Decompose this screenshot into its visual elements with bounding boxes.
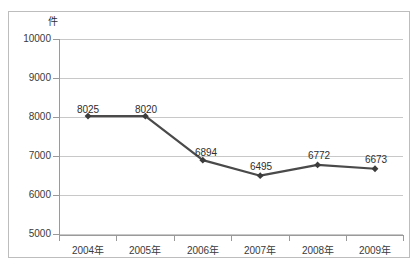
data-series	[9, 12, 411, 259]
point-label-2007: 6495	[233, 162, 289, 172]
point-label-2008: 6772	[291, 151, 347, 161]
data-point-2007年	[257, 172, 264, 179]
chart-frame: 件 10000 9000 8000 7000 6000 5000 2004年 2…	[8, 11, 410, 258]
data-point-2008年	[314, 161, 321, 168]
point-label-2009: 6673	[348, 155, 404, 165]
series-line	[88, 116, 375, 176]
point-label-2005: 8020	[118, 105, 174, 115]
point-label-2004: 8025	[60, 105, 116, 115]
series-markers	[85, 113, 379, 179]
point-label-2006: 6894	[178, 148, 234, 158]
data-point-2009年	[372, 165, 379, 172]
